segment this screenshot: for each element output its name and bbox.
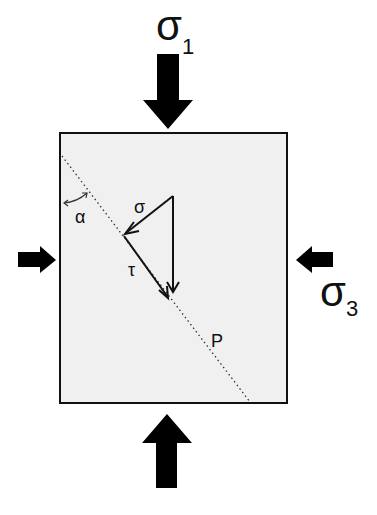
sigma3-label: σ3 [320,268,358,321]
angle-label: α [75,207,85,227]
bottom-arrow [142,414,192,488]
sigma1-arrow [143,54,193,129]
normal-stress-label: σ [134,197,145,217]
diagram-canvas: σ1 σ3 σ τ α P [0,0,377,515]
shear-stress-label: τ [128,260,135,280]
plane-label: P [211,331,223,351]
stress-diagram: σ1 σ3 σ τ α P [0,0,377,515]
left-arrow [18,246,56,273]
sigma1-label: σ1 [156,2,194,59]
